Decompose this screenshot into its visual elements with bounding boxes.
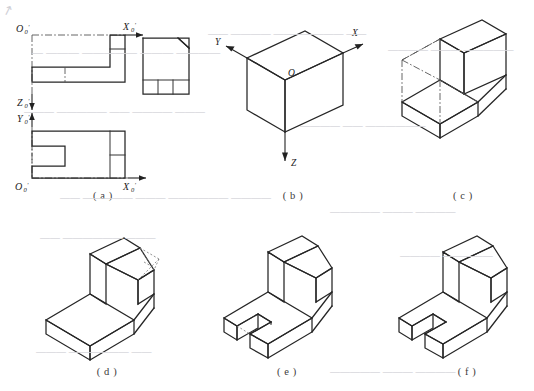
top-view-axes	[29, 113, 146, 181]
e-chamfer-inner-edge	[284, 262, 316, 278]
f-chamfer-inner-edge	[459, 262, 491, 278]
side-view-chamfer-line	[178, 38, 189, 48]
bleed-text-6: ————— ——— ————	[330, 206, 456, 217]
f-wall-base-joint-lower	[487, 306, 507, 332]
f-wall-base-joint	[487, 292, 507, 318]
label-axis-o: O	[288, 68, 295, 78]
caption-d: ( d )	[82, 366, 132, 377]
panel-d-drawing	[18, 232, 193, 367]
c-wall-right-face	[464, 34, 506, 94]
d-constr-right	[154, 259, 159, 270]
label-axis-x: X	[351, 28, 359, 38]
caption-c: ( c )	[438, 190, 488, 201]
iso-lblock-c-visible	[402, 20, 506, 138]
iso-solid-d	[46, 238, 154, 360]
panel-b-axis-labels: Y O X Z	[215, 28, 359, 168]
e-wall-front-face	[268, 252, 284, 302]
front-view-axes	[29, 32, 143, 110]
e-slot-construction	[237, 326, 250, 334]
f-prong-lower-end-face	[425, 334, 443, 358]
bleed-text-10: ————— ——— ————	[330, 366, 456, 377]
d-chamfer-construction	[138, 248, 159, 280]
c-wall-base-joint-right	[478, 75, 506, 102]
panel-e-drawing	[200, 232, 365, 367]
label-axis-y: Y	[215, 37, 222, 47]
label-Z0-prime-front: Z	[17, 97, 23, 108]
caption-f: ( f )	[442, 366, 492, 377]
f-slot-back-edge	[433, 314, 446, 322]
d-wall-base-joint	[134, 294, 154, 320]
d-base-left-face	[46, 320, 90, 360]
d-wall-right-face	[138, 270, 154, 304]
panel-c-drawing	[378, 18, 528, 188]
label-X0-prime-front: X	[122, 21, 130, 32]
caption-e: ( e )	[262, 366, 312, 377]
label-Z0-prime-front-prime: ′	[28, 97, 30, 104]
label-O0-prime-front-prime: ′	[28, 23, 30, 30]
e-wall-right-face	[316, 268, 332, 302]
iso-box-top-face	[247, 31, 343, 80]
panel-c-isometric-wireframe	[378, 18, 528, 188]
front-view-outline	[32, 35, 125, 82]
c-wall-front-face	[440, 39, 464, 94]
e-slot-lower-edge	[250, 322, 271, 334]
e-prong-lower-end-face	[250, 334, 268, 358]
label-Y0-prime-top: Y	[17, 113, 24, 124]
panel-b-isometric-axes: Y O X Z	[200, 18, 360, 188]
e-prong-left-end-face	[224, 318, 237, 340]
label-O0-prime-top: O	[15, 181, 22, 192]
iso-solid-e	[224, 236, 332, 358]
panel-a-orthographic-views: O 0 ′ X 0 ′ Z 0 ′ Y 0 ′ O 0 ′ X 0 ′	[10, 18, 210, 188]
top-y-arrowhead	[29, 113, 35, 120]
panel-d-isometric-chamfer	[18, 232, 193, 367]
page-corner-mark: ↗	[0, 0, 26, 20]
panel-b-drawing: Y O X Z	[200, 18, 360, 188]
c-wall-top-face	[440, 20, 506, 53]
side-view-chamfer-edge	[143, 38, 189, 48]
panel-f-drawing	[375, 232, 534, 367]
top-view-outline	[32, 131, 125, 178]
c-base-left-face	[402, 102, 440, 138]
d-wall-front-face	[90, 254, 106, 304]
iso-solid-f	[399, 236, 507, 358]
front-z-arrowhead	[29, 103, 35, 110]
c-hidden-diag-to-origin	[402, 60, 440, 80]
f-wall-front-face	[443, 252, 459, 302]
c-base-right-face	[440, 102, 478, 138]
figure-sheet: ↗	[0, 0, 534, 391]
label-axis-z: Z	[291, 158, 297, 168]
c-wall-base-joint-right-lower	[478, 89, 506, 116]
f-prong-left-end-face	[399, 318, 412, 340]
label-O0-prime-front: O	[16, 23, 23, 34]
iso-box-b	[247, 31, 343, 132]
front-view-profile	[32, 35, 125, 82]
e-base-right-face	[268, 318, 312, 358]
panel-a-axis-labels: O 0 ′ X 0 ′ Z 0 ′ Y 0 ′ O 0 ′ X 0 ′	[15, 21, 137, 193]
axis-z-arrowhead	[282, 153, 288, 162]
f-wall-right-face	[491, 268, 507, 302]
d-wall-base-joint-lower	[134, 308, 154, 334]
d-base-top-face	[46, 294, 134, 346]
e-wall-base-joint-lower	[312, 306, 332, 332]
d-chamfer-inner-edge	[106, 264, 138, 280]
label-X0-prime-top-prime: ′	[135, 181, 137, 188]
panel-e-isometric-slot	[200, 232, 365, 367]
label-O0-prime-top-prime: ′	[27, 181, 29, 188]
panel-f-isometric-final	[375, 232, 534, 367]
f-base-right-face	[443, 318, 487, 358]
iso-box-left-face	[247, 58, 285, 132]
front-x-arrowhead	[136, 32, 143, 38]
panel-a-drawing: O 0 ′ X 0 ′ Z 0 ′ Y 0 ′ O 0 ′ X 0 ′	[10, 18, 210, 188]
caption-a: ( a )	[78, 190, 128, 201]
side-view-outline	[143, 38, 189, 94]
iso-box-right-face	[285, 53, 343, 132]
side-view-body	[143, 38, 189, 94]
label-X0-prime-front-prime: ′	[135, 21, 137, 28]
e-slot-back-edge	[258, 314, 271, 322]
f-slot-lower-edge	[425, 322, 446, 334]
e-wall-base-joint	[312, 292, 332, 318]
caption-b: ( b )	[268, 190, 318, 201]
top-x-arrowhead	[139, 175, 146, 181]
d-base-right-face	[90, 320, 134, 360]
